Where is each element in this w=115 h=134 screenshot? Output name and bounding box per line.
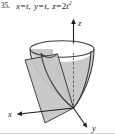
y-axis-label: y: [91, 123, 96, 133]
three-d-plot: z: [0, 13, 115, 134]
page-rule-divider: [0, 133, 115, 134]
y-axis-line: [74, 108, 87, 126]
problem-number: 35.: [1, 1, 10, 10]
parametric-equation: x=t, y=t, z=2t2: [16, 0, 72, 11]
y-axis: y: [74, 108, 97, 133]
z-axis-label: z: [77, 18, 82, 28]
equation-comma-1: ,: [29, 1, 32, 11]
figure-container: 35. x=t, y=t, z=2t2 z: [0, 0, 115, 134]
equation-z-exponent: 2: [69, 0, 72, 6]
equation-comma-2: ,: [47, 1, 50, 11]
x-axis-label: x: [7, 109, 12, 119]
